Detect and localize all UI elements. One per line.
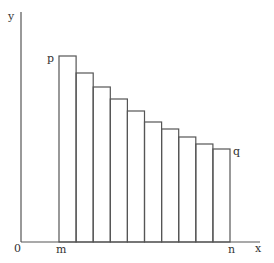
y-axis-label: y [7, 10, 15, 23]
point-p-label: p [47, 52, 54, 65]
rectangle-3 [93, 87, 110, 242]
point-m-label: m [56, 243, 67, 256]
origin-label: 0 [14, 242, 21, 255]
rectangle-2 [76, 73, 93, 242]
rectangle-10 [213, 149, 230, 242]
rectangle-1 [59, 56, 76, 242]
x-axis-label: x [255, 242, 262, 255]
rectangle-8 [179, 137, 196, 242]
rectangle-9 [196, 144, 213, 242]
point-q-label: q [233, 145, 240, 158]
point-n-label: n [228, 243, 235, 256]
riemann-rectangles-diagram: y 0 x p q m n [0, 0, 274, 263]
rectangles-group [59, 56, 230, 242]
rectangle-6 [145, 122, 162, 242]
rectangle-5 [127, 111, 144, 242]
rectangle-4 [110, 99, 127, 242]
rectangle-7 [162, 129, 179, 242]
